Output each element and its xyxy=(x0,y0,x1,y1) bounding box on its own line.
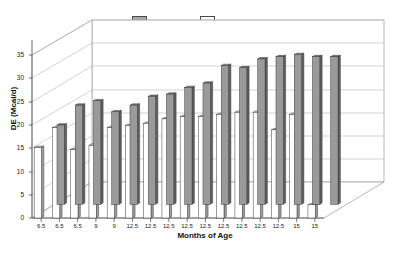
x-tick-label: 12.5 xyxy=(252,223,268,229)
bar-predicted xyxy=(75,104,85,205)
chart-container: predicted actual xyxy=(0,0,402,255)
bar-predicted xyxy=(276,55,286,204)
x-tick-label: 9 xyxy=(88,223,104,229)
bar-predicted xyxy=(130,104,140,205)
x-tick-label: 12.5 xyxy=(179,223,195,229)
chart-3d-frame xyxy=(0,0,402,255)
bar-predicted xyxy=(294,53,304,204)
x-tick-label: 12.5 xyxy=(197,223,213,229)
y-axis-title: DE (Mcal/d) xyxy=(9,69,18,149)
bar-predicted xyxy=(148,95,158,204)
bar-actual xyxy=(34,146,44,218)
bar-predicted xyxy=(166,93,176,205)
x-axis-title: Months of Age xyxy=(150,231,260,240)
bar-predicted xyxy=(185,86,195,204)
bar-predicted xyxy=(203,82,213,205)
x-tick-label: 6.5 xyxy=(51,223,67,229)
x-tick-label: 12.5 xyxy=(143,223,159,229)
x-tick-label: 12.5 xyxy=(234,223,250,229)
x-tick-label: 6.5 xyxy=(33,223,49,229)
bar-predicted xyxy=(331,55,341,204)
x-tick-label: 12.5 xyxy=(216,223,232,229)
x-tick-label: 15 xyxy=(289,223,305,229)
bar-actual xyxy=(308,203,318,218)
x-tick-label: 12.5 xyxy=(161,223,177,229)
bar-predicted xyxy=(93,99,103,204)
bar-predicted xyxy=(258,58,268,205)
bar-predicted xyxy=(112,110,122,204)
bar-predicted xyxy=(221,64,231,204)
x-tick-label: 12.5 xyxy=(124,223,140,229)
x-tick-label: 9 xyxy=(106,223,122,229)
bar-predicted xyxy=(239,66,249,204)
x-tick-label: 12.5 xyxy=(270,223,286,229)
bar-predicted xyxy=(57,124,67,205)
bar-predicted xyxy=(312,55,322,204)
y-tick-5: 5 xyxy=(8,191,24,198)
x-tick-label: 15 xyxy=(307,223,323,229)
y-tick-0: 0 xyxy=(8,214,24,221)
y-tick-35: 35 xyxy=(8,51,24,58)
x-tick-label: 6.5 xyxy=(70,223,86,229)
y-tick-10: 10 xyxy=(8,168,24,175)
